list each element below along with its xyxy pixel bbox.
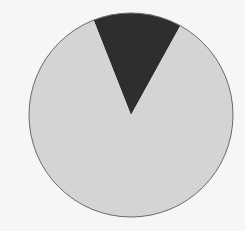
pie-slices	[29, 13, 233, 217]
pie-chart	[0, 0, 245, 231]
pie-chart-canvas	[0, 0, 245, 231]
